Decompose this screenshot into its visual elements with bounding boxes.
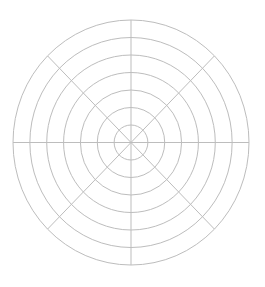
polar-grid-chart	[0, 0, 265, 287]
grid-spoke-225	[48, 143, 131, 230]
grid-spoke-45	[131, 56, 214, 143]
grid-spoke-135	[48, 56, 131, 143]
grid-spoke-315	[131, 143, 214, 230]
grid-spokes	[13, 20, 249, 265]
